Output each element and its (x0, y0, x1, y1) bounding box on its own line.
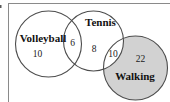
venn-diagram-figure: Volleyball Tennis Walking 10 6 8 10 22 (0, 0, 170, 102)
walking-label: Walking (115, 70, 155, 82)
tennis-only-count: 8 (92, 44, 97, 54)
scan-artifact-mark (0, 5, 2, 8)
venn-diagram-canvas: Volleyball Tennis Walking 10 6 8 10 22 (0, 0, 170, 102)
walking-only-count: 22 (136, 54, 146, 64)
tennis-label: Tennis (85, 16, 117, 28)
volleyball-tennis-intersection-count: 6 (70, 38, 75, 48)
volleyball-label: Volleyball (20, 32, 67, 44)
tennis-walking-intersection-count: 10 (108, 49, 118, 59)
volleyball-only-count: 10 (33, 49, 43, 59)
